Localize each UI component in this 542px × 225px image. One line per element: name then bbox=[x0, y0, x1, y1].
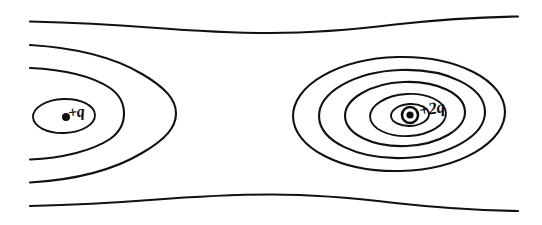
left-contour-second bbox=[30, 45, 176, 183]
right-charge-dot-icon bbox=[406, 111, 413, 118]
outer-contour-top bbox=[30, 17, 518, 34]
right-charge-label: +2q bbox=[418, 98, 446, 119]
equipotential-diagram: +q +2q bbox=[0, 0, 542, 225]
right-contour-3 bbox=[344, 79, 467, 148]
left-charge-label: +q bbox=[67, 103, 85, 121]
outer-contour-bottom bbox=[30, 195, 518, 212]
right-contour-1 bbox=[292, 54, 507, 174]
